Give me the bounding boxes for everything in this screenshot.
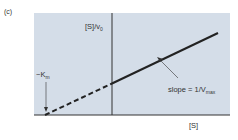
plot-background	[34, 13, 230, 115]
chart: [S]/v0 −Km slope = 1/Vmax [S]	[0, 0, 238, 140]
x-axis-label: [S]	[189, 121, 198, 130]
